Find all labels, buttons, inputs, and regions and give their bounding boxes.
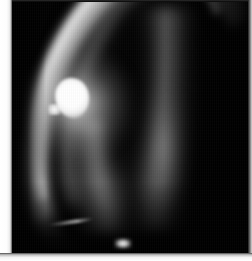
primary-hotspot-spur bbox=[48, 104, 61, 115]
left-white-margin bbox=[0, 0, 12, 261]
bottom-white-margin bbox=[0, 253, 252, 261]
image-viewport: Grayscale luminescence image bbox=[0, 0, 252, 261]
right-edge-strip bbox=[248, 0, 252, 261]
bottom-speck bbox=[114, 238, 132, 249]
top-edge-hairline bbox=[12, 0, 252, 2]
photographic-plate bbox=[12, 0, 250, 254]
